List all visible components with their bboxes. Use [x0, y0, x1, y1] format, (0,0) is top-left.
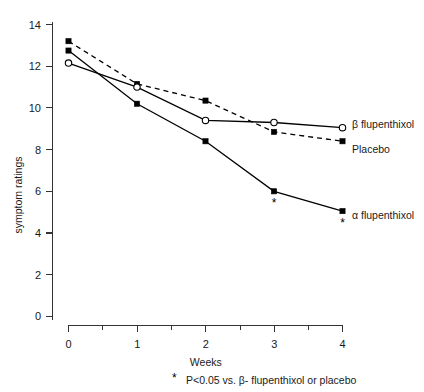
- beta-flupenthixol-data-point: [65, 60, 71, 66]
- y-tick-label-14: 14: [29, 19, 41, 31]
- chart-background: [0, 0, 424, 392]
- legend-label-beta-flupenthixol: β flupenthixol: [352, 118, 414, 130]
- alpha-flupenthixol-data-point: [66, 48, 71, 53]
- y-tick-label-6: 6: [35, 185, 41, 197]
- y-tick-label-0: 0: [35, 310, 41, 322]
- alpha-flupenthixol-data-point: [203, 139, 208, 144]
- placebo-data-point: [340, 139, 345, 144]
- y-tick-label-10: 10: [29, 102, 41, 114]
- legend-label-alpha-flupenthixol: α flupenthixol: [352, 209, 414, 221]
- placebo-data-point: [203, 98, 208, 103]
- beta-flupenthixol-data-point: [202, 117, 208, 123]
- placebo-data-point: [271, 129, 276, 134]
- x-tick-label-3: 3: [271, 338, 277, 350]
- y-tick-label-2: 2: [35, 269, 41, 281]
- alpha-flupenthixol-data-point: [271, 189, 276, 194]
- y-tick-label-4: 4: [35, 227, 41, 239]
- alpha-flupenthixol-data-point: [134, 101, 139, 106]
- y-axis-title: symptom ratings: [12, 156, 24, 233]
- beta-flupenthixol-data-point: [134, 84, 140, 90]
- symptom-ratings-line-chart: 14 12 10 8 6 4 2 0 symptom ratings 0: [0, 0, 424, 392]
- beta-flupenthixol-data-point: [271, 119, 277, 125]
- chart-figure: 14 12 10 8 6 4 2 0 symptom ratings 0: [0, 0, 424, 392]
- footnote-label: P<0.05 vs. β- flupenthixol or placebo: [186, 374, 357, 386]
- beta-flupenthixol-data-point: [339, 125, 345, 131]
- legend-label-placebo: Placebo: [352, 143, 390, 155]
- footnote: * P<0.05 vs. β- flupenthixol or placebo: [172, 371, 357, 386]
- y-tick-label-8: 8: [35, 144, 41, 156]
- x-tick-label-0: 0: [65, 338, 71, 350]
- significance-asterisk: *: [340, 216, 345, 230]
- alpha-flupenthixol-data-point: [340, 209, 345, 214]
- significance-asterisk: *: [272, 196, 277, 210]
- x-tick-label-1: 1: [134, 338, 140, 350]
- footnote-asterisk-icon: *: [172, 371, 177, 385]
- placebo-data-point: [66, 39, 71, 44]
- y-tick-label-12: 12: [29, 60, 41, 72]
- x-axis-title: Weeks: [190, 356, 222, 368]
- x-tick-label-4: 4: [339, 338, 345, 350]
- x-tick-label-2: 2: [203, 338, 209, 350]
